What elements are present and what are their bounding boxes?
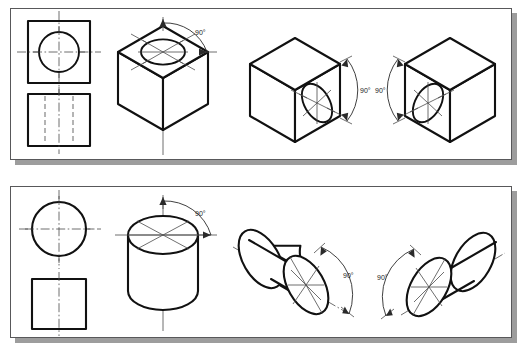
cylinder-top-view — [19, 190, 101, 269]
cube-panel-canvas: 90° — [11, 9, 511, 159]
cylinder-front-view — [32, 272, 86, 336]
cube-right-angle-label: 90° — [360, 87, 371, 94]
cube-left-angle-label: 90° — [375, 87, 386, 94]
cube-isometric-right-face: 90° — [250, 38, 371, 142]
cube-panel: 90° — [10, 8, 512, 160]
cylinder-isometric-right-axis: 90° — [229, 222, 354, 321]
cube-top-view — [17, 11, 101, 93]
cylinder-right-angle-label: 90° — [343, 272, 354, 279]
technical-drawing-figure: 90° — [0, 0, 524, 353]
cylinder-isometric-vertical: 90° — [115, 195, 217, 331]
cube-isometric-top-face: 90° — [118, 17, 217, 155]
cylinder-panel-canvas: 90° — [11, 187, 511, 337]
cylinder-top-angle-label: 90° — [195, 210, 206, 217]
cylinder-isometric-left-axis: 90° — [377, 225, 505, 323]
cube-front-view — [28, 87, 90, 154]
cube-top-angle-label: 90° — [195, 29, 206, 36]
cylinder-panel: 90° — [10, 186, 512, 338]
cylinder-left-angle-label: 90° — [377, 274, 388, 281]
cube-isometric-left-face: 90° — [375, 38, 495, 142]
